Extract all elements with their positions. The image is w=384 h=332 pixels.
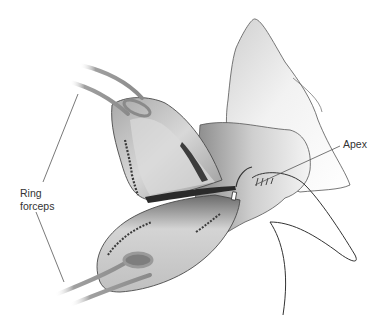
ring-forceps-label: Ring forceps xyxy=(20,187,54,213)
ring-forceps-leader-upper xyxy=(43,94,78,182)
apex-marker xyxy=(231,192,236,201)
ring-forceps-label-line2: forceps xyxy=(20,200,54,213)
surgical-illustration xyxy=(0,0,384,332)
ring-forceps-label-line1: Ring xyxy=(20,187,54,200)
ring-forceps-leader-lower xyxy=(36,212,64,282)
suture-thread-tail xyxy=(270,222,286,315)
ring-forceps-lower-ring xyxy=(124,253,152,267)
apex-label: Apex xyxy=(343,138,367,151)
ring-forceps-upper-arm-2 xyxy=(70,82,128,114)
ring-forceps-upper-arm-1 xyxy=(80,65,142,98)
